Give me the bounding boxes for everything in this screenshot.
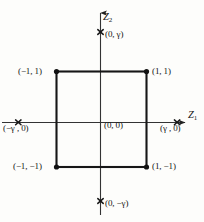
- x-axis-label: Z1: [188, 109, 197, 124]
- label-vertex-top-right: (1, 1): [152, 66, 171, 76]
- vertex-dot-bottom-right: [144, 164, 149, 169]
- label-left-gamma: (−γ , 0): [3, 123, 29, 133]
- x-axis-label-subscript: 1: [194, 114, 198, 122]
- vertex-dot-top-right: [144, 69, 149, 74]
- diagram-canvas: [0, 0, 204, 222]
- coordinate-diagram: Z2 Z1 (0, γ) (0, −γ) (−γ , 0) (γ , 0) (−…: [0, 0, 204, 222]
- vertex-dot-bottom-left: [54, 164, 59, 169]
- label-vertex-bottom-right: (1, −1): [152, 161, 176, 171]
- y-axis-label: Z2: [103, 11, 112, 26]
- label-origin: (0, 0): [104, 120, 123, 130]
- unit-square: [57, 72, 147, 168]
- y-axis-label-subscript: 2: [109, 16, 113, 24]
- vertex-dot-top-left: [54, 69, 59, 74]
- label-bottom-gamma: (0, −γ): [105, 198, 128, 208]
- label-vertex-bottom-left: (−1, −1): [13, 161, 42, 171]
- label-right-gamma: (γ , 0): [160, 123, 181, 133]
- label-vertex-top-left: (−1, 1): [18, 66, 42, 76]
- label-top-gamma: (0, γ): [105, 29, 123, 39]
